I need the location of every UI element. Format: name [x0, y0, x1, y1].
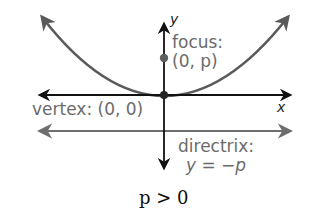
vertex-label: vertex: (0, 0) — [32, 100, 143, 118]
x-axis-label: x — [277, 100, 285, 114]
vertex-point — [160, 91, 168, 99]
caption: p > 0 — [139, 188, 189, 208]
focus-label: focus: — [172, 33, 223, 51]
directrix-label: directrix: — [178, 137, 254, 155]
focus-coordinates-label: (0, p) — [172, 52, 218, 70]
focus-point — [160, 54, 168, 62]
y-axis-label: y — [170, 12, 178, 26]
directrix-equation-label: y = −p — [186, 156, 246, 174]
